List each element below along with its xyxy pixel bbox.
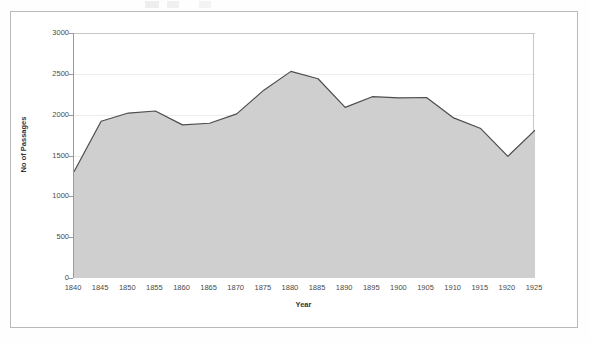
y-axis-tick-labels: 050010001500200025003000	[36, 33, 69, 278]
x-axis-tick-label: 1890	[336, 283, 353, 293]
x-axis-tick-label: 1885	[309, 283, 326, 293]
x-axis-tick-label: 1850	[119, 283, 136, 293]
y-axis-tick-mark	[68, 156, 73, 157]
area-series-passages	[74, 33, 535, 278]
y-axis-tick-label: 2500	[52, 70, 69, 78]
plot-area	[73, 33, 534, 278]
y-axis-tick-mark	[68, 237, 73, 238]
x-axis-tick-label: 1840	[65, 283, 82, 293]
x-axis-tick-label: 1895	[363, 283, 380, 293]
x-axis-tick-labels: 1840184518501855186018651870187518801885…	[73, 283, 534, 295]
area-fill-shape	[74, 71, 535, 278]
x-axis-tick-label: 1920	[499, 283, 516, 293]
y-axis-tick-mark	[68, 74, 73, 75]
y-axis-tick-label: 2000	[52, 111, 69, 119]
x-axis-title: Year	[73, 300, 534, 309]
x-axis-tick-label: 1915	[471, 283, 488, 293]
area-chart: 050010001500200025003000 184018451850185…	[0, 0, 590, 343]
y-axis-tick-label: 1500	[52, 152, 69, 160]
x-axis-tick-label: 1870	[227, 283, 244, 293]
x-axis-tick-label: 1855	[146, 283, 163, 293]
y-axis-tick-label: 1000	[52, 192, 69, 200]
y-axis-tick-label: 3000	[52, 29, 69, 37]
x-axis-tick-label: 1865	[200, 283, 217, 293]
x-axis-tick-label: 1900	[390, 283, 407, 293]
x-axis-tick-label: 1845	[92, 283, 109, 293]
y-axis-tick-mark	[68, 33, 73, 34]
x-axis-tick-label: 1880	[282, 283, 299, 293]
x-axis-tick-label: 1905	[417, 283, 434, 293]
y-axis-tick-mark	[68, 196, 73, 197]
x-axis-tick-label: 1875	[254, 283, 271, 293]
page-canvas: 050010001500200025003000 184018451850185…	[0, 0, 590, 343]
y-axis-tick-mark	[68, 115, 73, 116]
y-axis-tick-mark	[68, 278, 73, 279]
y-axis-title: No of Passages	[19, 100, 28, 190]
x-axis-tick-label: 1925	[526, 283, 543, 293]
x-axis-tick-label: 1910	[444, 283, 461, 293]
x-axis-tick-label: 1860	[173, 283, 190, 293]
